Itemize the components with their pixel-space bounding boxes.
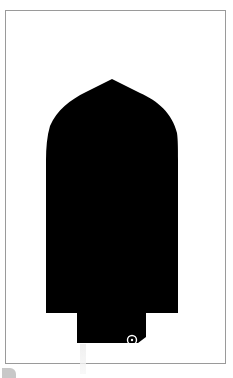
- corner-tab: [2, 368, 16, 378]
- faint-smudge: [80, 344, 86, 374]
- silhouette-shape: [0, 0, 233, 378]
